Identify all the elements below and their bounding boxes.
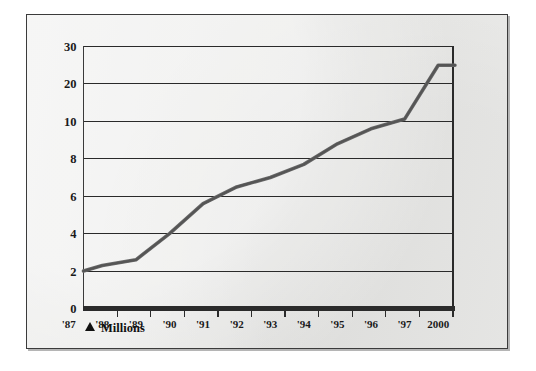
y-axis-tick-label: 4 xyxy=(70,227,77,241)
plot-area: 02468102030 '87'88'89'90'91'92'93'94'95'… xyxy=(27,15,509,350)
unit-annotation-group: Millions xyxy=(85,321,145,335)
triangle-marker-icon xyxy=(85,322,95,331)
y-axis-tick-label: 20 xyxy=(64,77,77,91)
x-axis-group xyxy=(83,309,455,317)
x-axis-tick-label: 2000 xyxy=(427,318,450,330)
x-axis-tick-label: '87 xyxy=(62,318,77,330)
y-axis-tick-label: 6 xyxy=(70,190,76,204)
y-axis-tick-label: 30 xyxy=(64,40,77,54)
gridlines-group xyxy=(84,47,454,272)
x-axis-tick-label: '92 xyxy=(230,318,245,330)
line-chart-svg: 02468102030 '87'88'89'90'91'92'93'94'95'… xyxy=(27,15,509,350)
y-axis-tick-label: 10 xyxy=(64,115,77,129)
x-axis-tick-label: '97 xyxy=(398,318,413,330)
chart-figure-frame: 02468102030 '87'88'89'90'91'92'93'94'95'… xyxy=(26,14,508,349)
chart-page: 02468102030 '87'88'89'90'91'92'93'94'95'… xyxy=(0,0,536,371)
x-tick-marks-group xyxy=(117,311,453,317)
y-axis-tick-label: 8 xyxy=(70,152,76,166)
series-group xyxy=(84,65,456,271)
x-axis-tick-label: '93 xyxy=(263,318,278,330)
x-axis-tick-label: '96 xyxy=(364,318,379,330)
x-axis-tick-label: '90 xyxy=(162,318,177,330)
y-axis-tick-label: 0 xyxy=(70,302,76,316)
x-axis-tick-label: '94 xyxy=(297,318,312,330)
y-tick-labels-group: 02468102030 xyxy=(64,40,77,316)
series-line-millions-core xyxy=(84,65,456,271)
series-line-millions xyxy=(84,65,456,271)
y-axis-tick-label: 2 xyxy=(70,265,76,279)
unit-annotation-label: Millions xyxy=(101,321,145,335)
x-axis-tick-label: '95 xyxy=(330,318,345,330)
x-axis-tick-label: '91 xyxy=(196,318,210,330)
